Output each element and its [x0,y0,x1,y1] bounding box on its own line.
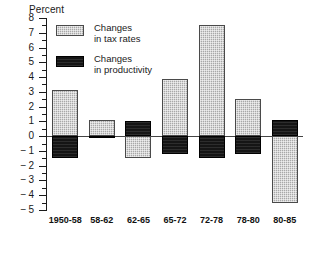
y-tick-major [39,121,47,122]
legend-label-line2: in productivity [94,64,152,75]
tax-rates-swatch [56,25,84,36]
y-tick-label: − 4 [8,190,34,200]
y-tick-label: − 5 [8,205,34,215]
y-tick-major [39,210,47,211]
y-axis-title: Percent [29,4,64,15]
y-tick-label: − 2 [8,161,34,171]
bar-tax-rates-80-85 [272,136,298,202]
y-tick-major [39,151,47,152]
y-tick-label: 7 [8,28,34,38]
productivity-swatch [56,56,84,67]
y-tick-major [39,166,47,167]
y-tick-label: 8 [8,13,34,23]
y-tick-major [39,136,47,137]
bar-productivity-72-78 [199,136,225,157]
bar-productivity-78-80 [235,136,261,154]
y-tick-label: 1 [8,116,34,126]
bar-tax-rates-78-80 [235,99,261,136]
bar-productivity-65-72 [162,136,188,154]
y-tick-major [39,92,47,93]
y-tick-label: 3 [8,87,34,97]
bar-tax-rates-65-72 [162,79,188,137]
legend-label-line1: Changes [94,53,132,64]
y-tick-major [39,195,47,196]
y-tick-major [39,77,47,78]
legend-label-line2: in tax rates [94,33,140,44]
bar-tax-rates-62-65 [125,136,151,157]
y-tick-label: 0 [8,131,34,141]
y-tick-major [39,62,47,63]
x-tick-label-80-85: 80-85 [255,216,310,225]
bar-tax-rates-1950-58 [52,90,78,136]
bar-productivity-62-65 [125,121,151,136]
plot-area [47,18,303,210]
bar-tax-rates-72-78 [199,25,225,136]
y-tick-label: − 1 [8,146,34,156]
y-tick-major [39,180,47,181]
y-tick-label: 4 [8,72,34,82]
bar-productivity-58-62 [89,136,115,138]
bar-chart: Percent 876543210− 1− 2− 3− 4− 5 1950-58… [0,0,310,255]
bar-productivity-1950-58 [52,136,78,157]
bar-productivity-80-85 [272,120,298,136]
legend-label-line1: Changes [94,22,132,33]
y-tick-label: − 3 [8,175,34,185]
y-tick-major [39,18,47,19]
legend-label-productivity: Changes in productivity [94,54,152,75]
y-tick-label: 2 [8,102,34,112]
y-tick-major [39,107,47,108]
y-tick-label: 6 [8,43,34,53]
y-tick-major [39,48,47,49]
y-tick-major [39,33,47,34]
y-tick-label: 5 [8,57,34,67]
bar-tax-rates-58-62 [89,120,115,136]
legend-label-tax-rates: Changes in tax rates [94,23,140,44]
